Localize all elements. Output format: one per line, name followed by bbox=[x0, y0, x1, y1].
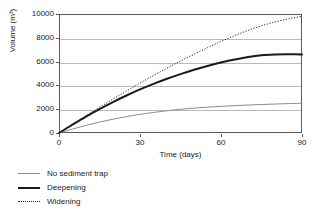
series-line bbox=[59, 103, 302, 133]
x-axis-title: Time (days) bbox=[59, 150, 302, 159]
y-axis-title: Volume (m³) bbox=[8, 0, 17, 76]
legend-item[interactable]: No sediment trap bbox=[18, 166, 218, 180]
chart-container: Volume (m³) 0200040006000800010000 03060… bbox=[0, 0, 319, 219]
x-tick-label: 90 bbox=[287, 139, 317, 147]
y-tick-label: 10000 bbox=[32, 10, 54, 18]
legend-label: Widening bbox=[47, 197, 80, 206]
legend-swatch bbox=[18, 196, 40, 206]
y-tick-label: 0 bbox=[50, 129, 54, 137]
x-tick-label: 60 bbox=[206, 139, 236, 147]
y-tick-label: 8000 bbox=[36, 34, 54, 42]
chart-legend: No sediment trapDeepeningWidening bbox=[18, 166, 218, 208]
x-tick-mark bbox=[302, 134, 303, 137]
x-tick-label: 0 bbox=[44, 139, 74, 147]
legend-swatch bbox=[18, 182, 40, 192]
legend-line-marker bbox=[18, 187, 40, 189]
x-tick-label: 30 bbox=[125, 139, 155, 147]
y-tick-label: 2000 bbox=[36, 105, 54, 113]
x-tick-mark bbox=[59, 134, 60, 137]
legend-swatch bbox=[18, 168, 40, 178]
y-tick-label: 6000 bbox=[36, 58, 54, 66]
x-tick-mark bbox=[221, 134, 222, 137]
series-layer bbox=[59, 14, 302, 133]
legend-label: Deepening bbox=[47, 183, 86, 192]
y-tick-label: 4000 bbox=[36, 81, 54, 89]
legend-line-marker bbox=[18, 201, 40, 202]
legend-label: No sediment trap bbox=[47, 169, 108, 178]
x-tick-mark bbox=[140, 134, 141, 137]
legend-item[interactable]: Widening bbox=[18, 194, 218, 208]
series-line bbox=[59, 54, 302, 133]
legend-line-marker bbox=[18, 173, 40, 174]
legend-item[interactable]: Deepening bbox=[18, 180, 218, 194]
